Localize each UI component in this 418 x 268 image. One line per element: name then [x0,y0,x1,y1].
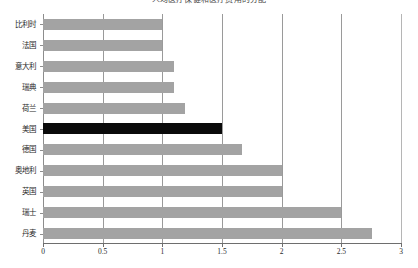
x-tick-label: 1.5 [217,247,226,257]
x-tick-mark [43,243,44,247]
x-tick-label: 2.5 [337,247,346,257]
bar-法国 [43,40,162,51]
y-tick-label: 美国 [0,125,36,134]
y-tick-label: 法国 [0,41,36,50]
y-tick-label: 瑞士 [0,208,36,217]
bar-瑞士 [43,207,341,218]
y-tick-label: 瑞典 [0,83,36,92]
bar-德国 [43,144,242,155]
y-tick-label: 荷兰 [0,104,36,113]
y-tick-label: 意大利 [0,62,36,71]
bar-row [43,223,401,244]
y-tick-label: 奥地利 [0,166,36,175]
x-tick-label: 1 [160,247,164,257]
bar-row [43,14,401,35]
chart-title: 人均医疗保健和医疗费用的分配 [0,0,418,4]
y-tick-label: 丹麦 [0,229,36,238]
y-tick-label: 比利时 [0,20,36,29]
x-tick-label: 0 [41,247,45,257]
bar-奥地利 [43,165,282,176]
plot-area [43,14,401,244]
x-tick-mark [103,243,104,247]
x-tick-label: 2 [280,247,284,257]
bar-row [43,77,401,98]
bar-比利时 [43,19,162,30]
y-tick-label: 英国 [0,187,36,196]
bar-chart: 人均医疗保健和医疗费用的分配 比利时法国意大利瑞典荷兰美国德国奥地利英国瑞士丹麦… [0,0,418,268]
bar-row [43,35,401,56]
bar-row [43,56,401,77]
x-axis-tick-labels: 00.511.522.53 [0,247,418,261]
bar-意大利 [43,61,174,72]
x-tick-mark [401,243,402,247]
bar-row [43,98,401,119]
bar-瑞典 [43,82,174,93]
bar-row [43,181,401,202]
y-tick-label: 德国 [0,145,36,154]
bar-row [43,202,401,223]
x-tick-label: 3 [399,247,403,257]
x-tick-mark [162,243,163,247]
x-tick-label: 0.5 [98,247,107,257]
bar-丹麦 [43,228,372,239]
x-tick-mark [341,243,342,247]
bar-英国 [43,186,282,197]
bar-荷兰 [43,103,185,114]
bar-row [43,119,401,140]
y-axis-category-labels: 比利时法国意大利瑞典荷兰美国德国奥地利英国瑞士丹麦 [0,14,40,244]
bar-美国 [43,123,222,134]
bar-row [43,160,401,181]
bar-row [43,139,401,160]
x-tick-mark [282,243,283,247]
x-tick-mark [222,243,223,247]
gridline [401,14,402,244]
